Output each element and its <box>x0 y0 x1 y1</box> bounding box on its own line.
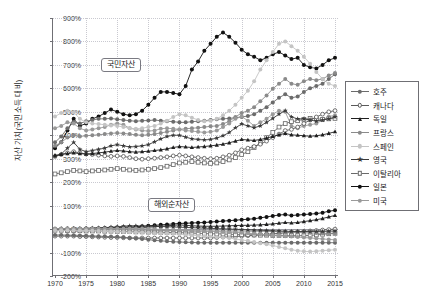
legend-label: 미국 <box>370 195 387 206</box>
chart-root: 자산 가치(국민소득 대비) 900%800%700%600%500%400%3… <box>0 0 423 298</box>
legend-label: 독일 <box>370 113 387 124</box>
legend-label: 영국 <box>370 154 387 165</box>
series-독일 <box>53 129 337 156</box>
series-영국 <box>53 108 338 158</box>
series-스페인 <box>53 39 337 130</box>
x-axis-tick-label: 1975 <box>78 280 94 287</box>
legend-marker-icon <box>350 140 370 153</box>
legend-item-캐나다[interactable]: 캐나다 <box>348 99 416 113</box>
x-axis-tick-label: 1985 <box>141 280 157 287</box>
legend-label: 캐나다 <box>370 100 394 111</box>
legend-marker-icon <box>350 180 370 193</box>
legend-item-독일[interactable]: 독일 <box>348 112 416 126</box>
series-미국 <box>53 226 337 241</box>
plot-area: 1970197519801985199019952000200520102015 <box>52 18 338 276</box>
legend-marker-icon <box>350 167 370 180</box>
legend-label: 이탈리아 <box>370 168 401 179</box>
legend-marker-icon <box>350 112 370 125</box>
legend-marker-icon <box>350 126 370 139</box>
legend-item-이탈리아[interactable]: 이탈리아 <box>348 167 416 181</box>
x-axis-tick-label: 1980 <box>109 280 125 287</box>
legend-label: 일본 <box>370 181 387 192</box>
x-axis-tick-label: 2000 <box>234 280 250 287</box>
legend-label: 스페인 <box>370 141 394 152</box>
legend-item-호주[interactable]: 호주 <box>348 85 416 99</box>
legend-item-프랑스[interactable]: 프랑스 <box>348 126 416 140</box>
annotation-net-foreign-assets: 해외순자산 <box>148 198 195 212</box>
series-프랑스 <box>53 71 337 148</box>
x-axis-tick-label: 1995 <box>203 280 219 287</box>
y-axis-tick-mark <box>50 276 53 277</box>
legend-item-미국[interactable]: 미국 <box>348 194 416 208</box>
x-axis-tick-label: 2010 <box>296 280 312 287</box>
legend-marker-icon <box>350 99 370 112</box>
x-axis-tick-label: 2005 <box>265 280 281 287</box>
legend-marker-icon: ★ <box>350 153 370 166</box>
legend-label: 호주 <box>370 86 387 97</box>
series-layer <box>53 18 339 276</box>
series-호주 <box>53 72 337 144</box>
legend-marker-icon <box>350 194 370 207</box>
legend-marker-icon <box>350 85 370 98</box>
legend-item-영국[interactable]: ★영국 <box>348 153 416 167</box>
legend-item-일본[interactable]: 일본 <box>348 180 416 194</box>
series-이탈리아 <box>53 116 337 175</box>
legend-label: 프랑스 <box>370 127 394 138</box>
legend-item-스페인[interactable]: 스페인 <box>348 139 416 153</box>
legend: 호주캐나다독일프랑스스페인★영국이탈리아일본미국 <box>345 81 419 211</box>
x-axis-tick-label: 1970 <box>47 280 63 287</box>
x-axis-tick-label: 2015 <box>327 280 343 287</box>
x-axis-tick-label: 1990 <box>172 280 188 287</box>
series-호주 <box>53 233 337 245</box>
annotation-national-assets: 국민자산 <box>101 58 141 72</box>
y-axis-label: 자산 가치(국민소득 대비) <box>12 56 23 186</box>
